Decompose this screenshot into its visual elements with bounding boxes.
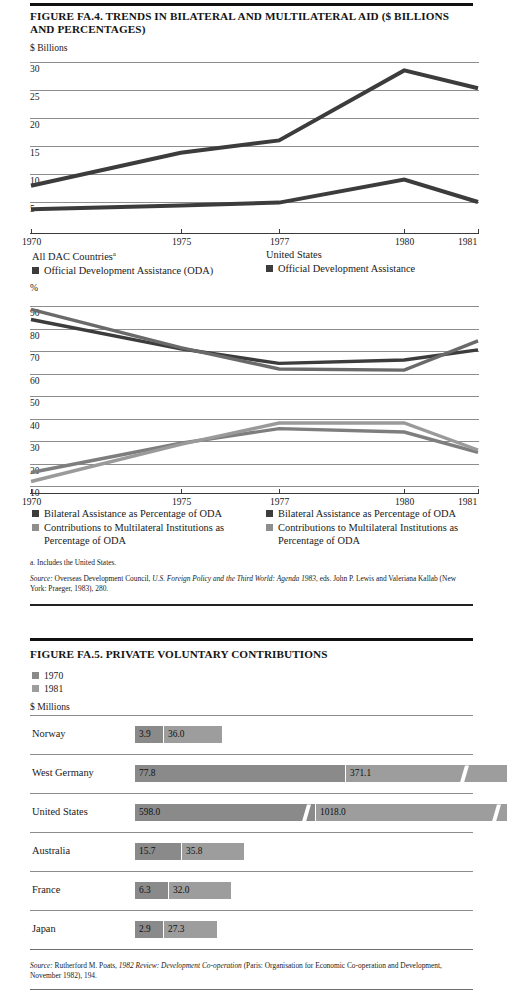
x-axis-tick-label: 1977: [270, 236, 289, 247]
legend-item-1970: 1970: [32, 670, 471, 682]
fa4-top-rule: [30, 3, 473, 6]
square-swatch-icon: [32, 510, 39, 517]
bar-row-label: United States: [32, 806, 88, 818]
fa5-top-rule: [30, 638, 473, 641]
bar-value-1981: 27.3: [168, 923, 184, 936]
legend-item-us-multilateral-pct: Contributions to Multilateral Institutio…: [266, 521, 498, 547]
legend-item-us-bilateral-pct-label: Bilateral Assistance as Percentage of OD…: [278, 507, 456, 520]
data-series-line: [31, 70, 478, 185]
fa5-source-note: Source: Rutherford M. Poats, 1982 Review…: [30, 961, 473, 980]
fa4-legend-top: All DAC Countriesa Official Development …: [30, 248, 473, 280]
bar-chart-row: West Germany77.8371.1: [30, 754, 473, 793]
bar-track: 77.8371.1: [135, 765, 473, 782]
bar-value-1970: 3.9: [139, 728, 151, 741]
legend-group-all-dac: All DAC Countriesa Official Development …: [32, 248, 272, 277]
bar-track: 6.332.0: [135, 882, 473, 899]
legend-group-pct-all-dac: Bilateral Assistance as Percentage of OD…: [32, 506, 267, 547]
row-separator: [30, 871, 473, 872]
row-separator: [30, 793, 473, 794]
x-axis-tick-label: 1970: [22, 236, 41, 247]
square-swatch-icon: [32, 685, 39, 692]
bar-chart-row: Norway3.936.0: [30, 715, 473, 754]
fa5-source-prefix: Source:: [30, 961, 53, 970]
chart-private-voluntary-contributions: Norway3.936.0West Germany77.8371.1United…: [30, 715, 473, 949]
fa4-source-italic-1: U.S. Foreign Policy and the Third World:…: [152, 574, 316, 583]
legend-group-united-states: United States Official Development Assis…: [266, 248, 496, 275]
bar-value-1970: 15.7: [139, 845, 155, 858]
fa4-chart2-unit-label: %: [30, 282, 503, 293]
legend-item-dac-oda: Official Development Assistance (ODA): [32, 264, 272, 277]
bar-value-1970: 598.0: [139, 806, 160, 819]
fa5-legend: 1970 1981: [32, 670, 471, 694]
row-separator: [30, 910, 473, 911]
bar-row-label: Norway: [32, 728, 65, 740]
legend-item-us-oda: Official Development Assistance: [266, 262, 496, 275]
bar-value-1981: 36.0: [168, 728, 184, 741]
legend-item-us-oda-label: Official Development Assistance: [278, 262, 415, 275]
square-swatch-icon: [32, 524, 39, 531]
bar-chart-row: Japan2.927.3: [30, 910, 473, 949]
legend-item-1981: 1981: [32, 683, 471, 695]
figure-fa5: FIGURE FA.5. PRIVATE VOLUNTARY CONTRIBUT…: [0, 638, 503, 990]
bar-track: 2.927.3: [135, 921, 473, 938]
bar-track: 15.735.8: [135, 843, 473, 860]
bar-row-label: France: [32, 884, 60, 896]
bar-value-1981: 1018.0: [320, 806, 346, 819]
fa4-footnote: a. Includes the United States.: [30, 558, 473, 568]
fa4-source-prefix: Source:: [30, 574, 53, 583]
fa5-source-italic-1: 1982 Review: Development Co-operation: [119, 961, 242, 970]
legend-item-dac-multilateral-pct-label: Contributions to Multilateral Institutio…: [44, 521, 267, 547]
bar-value-1970: 6.3: [139, 884, 151, 897]
bar-chart-row: Australia15.735.8: [30, 832, 473, 871]
legend-head-all-dac: All DAC Countriesa: [32, 248, 272, 263]
fa5-title: FIGURE FA.5. PRIVATE VOLUNTARY CONTRIBUT…: [30, 648, 473, 661]
row-separator: [30, 832, 473, 833]
plot-lines: [30, 55, 479, 237]
square-swatch-icon: [32, 267, 39, 274]
legend-item-1981-label: 1981: [44, 683, 63, 695]
square-swatch-icon: [266, 524, 273, 531]
legend-item-dac-bilateral-pct-label: Bilateral Assistance as Percentage of OD…: [44, 507, 222, 520]
x-axis-tick-label: 1981: [458, 236, 477, 247]
fa5-bars-bottom-rule: [30, 949, 473, 950]
legend-item-dac-bilateral-pct: Bilateral Assistance as Percentage of OD…: [32, 507, 267, 520]
bar-value-1981: 32.0: [173, 884, 189, 897]
legend-item-1970-label: 1970: [44, 670, 63, 682]
bar-track: 598.01018.0: [135, 804, 473, 821]
chart-aid-percentages: 90807060504030201019701975197719801981: [30, 295, 479, 495]
legend-head-all-dac-label: All DAC Countries: [32, 251, 113, 262]
bar-row-label: Australia: [32, 845, 70, 857]
x-axis-tick-label: 1980: [395, 236, 414, 247]
bar-value-1981: 371.1: [350, 767, 371, 780]
legend-item-us-multilateral-pct-label: Contributions to Multilateral Institutio…: [278, 521, 498, 547]
legend-item-us-bilateral-pct: Bilateral Assistance as Percentage of OD…: [266, 507, 498, 520]
plot-lines: [30, 295, 479, 495]
fa4-title: FIGURE FA.4. TRENDS IN BILATERAL AND MUL…: [30, 10, 473, 37]
legend-item-dac-multilateral-pct: Contributions to Multilateral Institutio…: [32, 521, 267, 547]
fa5-bottom-rule: [30, 989, 473, 990]
bar-1970: [135, 804, 315, 821]
row-separator: [30, 754, 473, 755]
legend-item-dac-oda-label: Official Development Assistance (ODA): [44, 264, 213, 277]
x-axis-tick-label: 1975: [172, 236, 191, 247]
bar-chart-row: United States598.01018.0: [30, 793, 473, 832]
bar-track: 3.936.0: [135, 726, 473, 743]
fa4-source-text-1: Overseas Development Council,: [53, 574, 153, 583]
fa5-source-text-1: Rutherford M. Poats,: [53, 961, 119, 970]
fa4-legend-bottom: Bilateral Assistance as Percentage of OD…: [30, 506, 473, 550]
bar-row-label: Japan: [32, 923, 56, 935]
bar-1970: [135, 765, 345, 782]
legend-head-united-states: United States: [266, 248, 496, 261]
figure-fa4: FIGURE FA.4. TRENDS IN BILATERAL AND MUL…: [0, 0, 503, 606]
fa4-source-note: Source: Overseas Development Council, U.…: [30, 574, 473, 593]
chart-aid-billions: 3025201510519701975197719801981: [30, 55, 479, 237]
fa4-chart1-unit-label: $ Billions: [30, 42, 503, 53]
bar-value-1970: 77.8: [139, 767, 155, 780]
row-separator: [30, 715, 473, 716]
bar-chart-row: France6.332.0: [30, 871, 473, 910]
square-swatch-icon: [32, 672, 39, 679]
bar-value-1981: 35.8: [186, 845, 202, 858]
legend-group-pct-united-states: Bilateral Assistance as Percentage of OD…: [266, 506, 498, 547]
fa5-unit-label: $ Millions: [30, 701, 503, 712]
